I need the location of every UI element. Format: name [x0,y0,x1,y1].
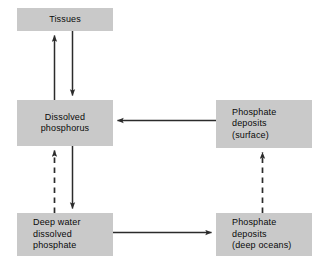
node-dissolved-phosphorus: Dissolved phosphorus [17,100,113,146]
node-phosphate-deposits-surface: Phosphate deposits (surface) [216,100,312,148]
node-phosphate-deposits-deep-oceans-label: Phosphate deposits (deep oceans) [216,217,312,252]
phosphorus-cycle-diagram: Tissues Dissolved phosphorus Deep water … [0,0,322,267]
node-dissolved-phosphorus-label: Dissolved phosphorus [17,112,113,135]
node-deep-water-dissolved-phosphate-label: Deep water dissolved phosphate [17,217,113,252]
node-phosphate-deposits-deep-oceans: Phosphate deposits (deep oceans) [216,213,312,256]
node-phosphate-deposits-surface-label: Phosphate deposits (surface) [216,107,312,142]
node-deep-water-dissolved-phosphate: Deep water dissolved phosphate [17,213,113,256]
node-tissues: Tissues [17,8,113,31]
node-tissues-label: Tissues [17,14,113,26]
